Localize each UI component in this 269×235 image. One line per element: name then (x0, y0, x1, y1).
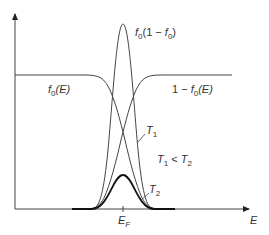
f0-label: f0(E) (48, 83, 71, 98)
t1-label: T1 (146, 124, 158, 139)
t1-leader (138, 134, 145, 142)
x-axis-label: E (250, 214, 258, 226)
one-minus-f0-label: 1 − f0(E) (172, 83, 213, 98)
t2-label: T2 (149, 183, 161, 198)
product-curve-t1 (92, 24, 154, 209)
fermi-energy-tick-label: EF (118, 214, 131, 229)
fermi-dirac-diagram: f0(1 − f0) f0(E) 1 − f0(E) T1 T1 < T2 T2… (0, 0, 269, 235)
t2-leader (141, 193, 149, 200)
temperature-relation-label: T1 < T2 (157, 153, 192, 168)
product-label: f0(1 − f0) (135, 26, 176, 41)
